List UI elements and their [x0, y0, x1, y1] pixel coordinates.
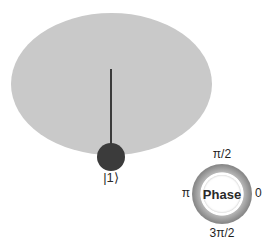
- figure-canvas: |1⟩ Phase π/2 0 3π/2 π: [0, 0, 274, 250]
- phase-tick-zero: 0: [255, 186, 273, 200]
- phase-tick-three-pi-over-2: 3π/2: [192, 226, 252, 240]
- state-ket-label: |1⟩: [86, 170, 136, 185]
- state-vector-stem: [110, 69, 112, 153]
- phase-tick-pi: π: [168, 186, 190, 200]
- phase-dial[interactable]: Phase: [192, 164, 252, 224]
- phase-dial-center-label: Phase: [192, 164, 252, 224]
- phase-tick-pi-over-2: π/2: [192, 147, 252, 161]
- state-vector-dot: [97, 143, 125, 171]
